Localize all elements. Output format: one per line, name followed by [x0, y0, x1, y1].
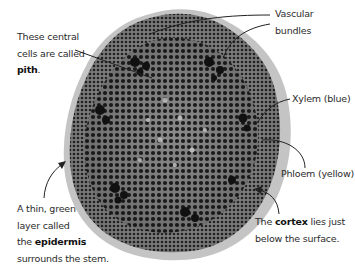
epidermis-label: A thin, green layer called the epidermis… — [17, 201, 109, 267]
stem-diagram: These central cells are called pith. Vas… — [0, 0, 355, 274]
phloem-label: Phloem (yellow) — [281, 166, 354, 183]
pith-term: pith — [17, 64, 38, 75]
cortex-label-line-2: below the surface. — [255, 231, 345, 248]
epidermis-label-line-4: surrounds the stem. — [17, 251, 109, 268]
cortex-term: cortex — [275, 216, 308, 227]
pith-label-line-2: cells are called — [17, 46, 85, 63]
pith-label-line-1: These central — [17, 29, 85, 46]
vascular-bundles-label: Vascular bundles — [275, 6, 314, 39]
epidermis-label-line-1: A thin, green — [17, 201, 109, 218]
cortex-label: The cortex lies just below the surface. — [255, 214, 345, 247]
vascular-label-line-2: bundles — [275, 23, 314, 40]
vascular-label-line-1: Vascular — [275, 6, 314, 23]
xylem-label: Xylem (blue) — [292, 91, 350, 108]
epidermis-term: epidermis — [35, 236, 86, 247]
epidermis-arrow-line — [44, 164, 62, 198]
pith-label: These central cells are called pith. — [17, 29, 85, 79]
epidermis-label-line-2: layer called — [17, 218, 109, 235]
